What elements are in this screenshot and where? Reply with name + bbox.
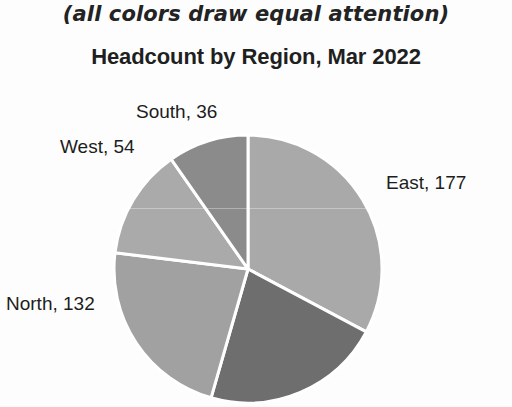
scan-artifact-line bbox=[118, 208, 380, 209]
pie-label-east: East, 177 bbox=[386, 172, 466, 194]
pie-chart: South, 36 West, 54 East, 177 North, 132 bbox=[0, 0, 512, 407]
pie-label-south: South, 36 bbox=[136, 101, 217, 123]
pie-label-north: North, 132 bbox=[6, 293, 95, 315]
pie-slice-group bbox=[114, 135, 382, 403]
pie-label-west: West, 54 bbox=[60, 136, 135, 158]
chart-figure: (all colors draw equal attention) Headco… bbox=[0, 0, 512, 407]
pie-chart-svg bbox=[0, 0, 512, 407]
